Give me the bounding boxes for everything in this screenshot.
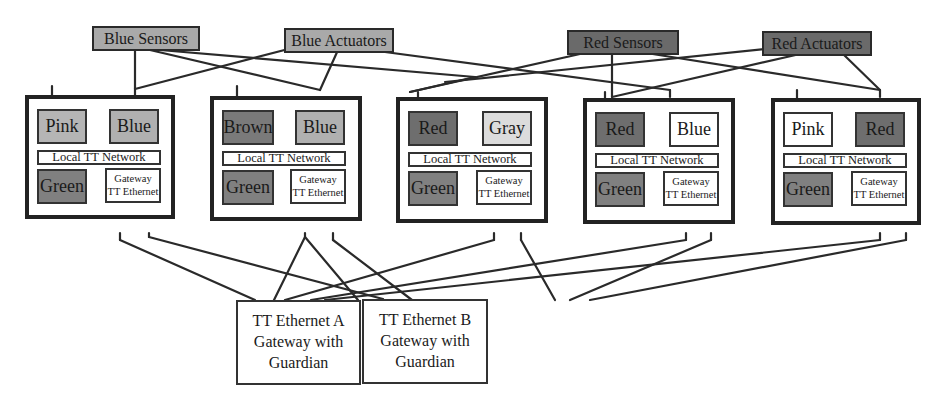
node-5-left-component: Pink [783,112,833,147]
node-5: Pink Red Local TT Network Green Gateway … [771,98,921,225]
node-2-gateway: Gateway TT Ethernet [290,169,346,204]
blue-actuators-label: Blue Actuators [284,28,394,53]
gateway-line-2: TT Ethernet [479,188,530,201]
node-2: Brown Blue Local TT Network Green Gatewa… [210,96,362,221]
gateway-line-1: Gateway [860,176,897,189]
red-sensors-label: Red Sensors [567,30,679,55]
gateway-line-1: Gateway [299,174,336,187]
gateway-line-1: Gateway [485,175,522,188]
node-1-right-component: Blue [109,109,159,144]
blue-sensors-label: Blue Sensors [92,26,200,51]
gateway-line-1: Gateway [114,173,151,186]
tte-a-line-3: Guardian [269,353,329,374]
node-5-green-component: Green [783,172,833,207]
node-1-gateway: Gateway TT Ethernet [105,168,161,203]
node-3-left-component: Red [408,111,458,146]
node-2-right-component: Blue [295,110,345,145]
red-actuators-label: Red Actuators [762,31,872,56]
node-2-left-component: Brown [222,110,274,145]
tt-ethernet-b-gateway: TT Ethernet B Gateway with Guardian [362,299,488,384]
node-5-local-network: Local TT Network [783,153,907,168]
gateway-line-2: TT Ethernet [108,186,159,199]
node-1: Pink Blue Local TT Network Green Gateway… [25,95,175,219]
node-4-right-component: Blue [669,112,719,147]
node-4-local-network: Local TT Network [595,153,719,168]
gateway-line-2: TT Ethernet [666,189,717,202]
node-3: Red Gray Local TT Network Green Gateway … [396,97,548,223]
tte-a-line-1: TT Ethernet A [252,311,344,332]
gateway-line-1: Gateway [672,176,709,189]
node-3-local-network: Local TT Network [408,152,532,167]
node-1-green-component: Green [37,169,87,204]
node-2-green-component: Green [222,170,274,205]
node-5-gateway: Gateway TT Ethernet [851,171,907,206]
tte-b-line-1: TT Ethernet B [379,310,471,331]
node-3-gateway: Gateway TT Ethernet [476,170,532,205]
node-4: Red Blue Local TT Network Green Gateway … [583,98,735,224]
node-4-gateway: Gateway TT Ethernet [663,171,719,206]
node-3-green-component: Green [408,171,458,206]
node-5-right-component: Red [855,112,905,147]
gateway-line-2: TT Ethernet [854,189,905,202]
node-4-left-component: Red [595,112,645,147]
tte-a-line-2: Gateway with [254,332,343,353]
node-2-local-network: Local TT Network [222,151,346,166]
tt-ethernet-a-gateway: TT Ethernet A Gateway with Guardian [236,300,361,385]
tte-b-line-3: Guardian [395,352,455,373]
node-1-local-network: Local TT Network [37,150,161,165]
node-4-green-component: Green [595,172,645,207]
node-1-left-component: Pink [37,109,87,144]
node-3-right-component: Gray [482,111,532,146]
tte-b-line-2: Gateway with [380,331,469,352]
gateway-line-2: TT Ethernet [293,187,344,200]
